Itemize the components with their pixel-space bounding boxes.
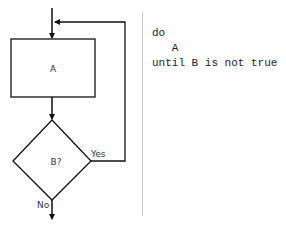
- code-line-until: until B is not true: [152, 56, 277, 71]
- decision-label: B?: [51, 157, 62, 167]
- code-line-a: A: [152, 41, 277, 56]
- flowchart: A B? Yes No: [0, 0, 142, 233]
- pseudocode-block: do Auntil B is not true: [152, 26, 277, 71]
- no-label: No: [37, 200, 50, 210]
- code-line-do: do: [152, 26, 277, 41]
- divider: [142, 12, 143, 216]
- yes-label: Yes: [90, 149, 106, 159]
- process-label: A: [50, 64, 57, 74]
